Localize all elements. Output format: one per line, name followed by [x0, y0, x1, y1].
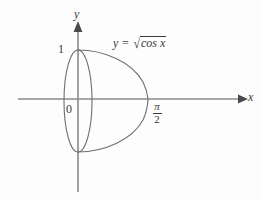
radical-sign-icon: √: [133, 36, 140, 50]
radical-expression: √cos x: [132, 36, 166, 50]
curve-sqrt-cos-upper: [78, 50, 148, 99]
x-axis-label: x: [248, 91, 253, 103]
y-axis-arrowhead: [74, 21, 83, 32]
figure-canvas: [0, 0, 262, 199]
equation-lhs: y: [113, 36, 118, 50]
equation-annotation: y = √cos x: [113, 36, 166, 50]
equation-equals: =: [121, 36, 129, 50]
pi-denominator: 2: [150, 114, 164, 126]
curve-sqrt-cos-lower: [78, 99, 148, 152]
x-tick-label-pi-over-two: π 2: [150, 101, 164, 125]
math-figure: y x 1 0 π 2 y = √cos x: [0, 0, 262, 199]
radicand: cos x: [140, 36, 166, 50]
y-tick-label-one: 1: [58, 43, 64, 55]
x-axis-arrowhead: [238, 95, 248, 104]
pi-numerator: π: [150, 101, 164, 113]
y-axis-label: y: [74, 8, 79, 20]
origin-label: 0: [66, 103, 72, 115]
